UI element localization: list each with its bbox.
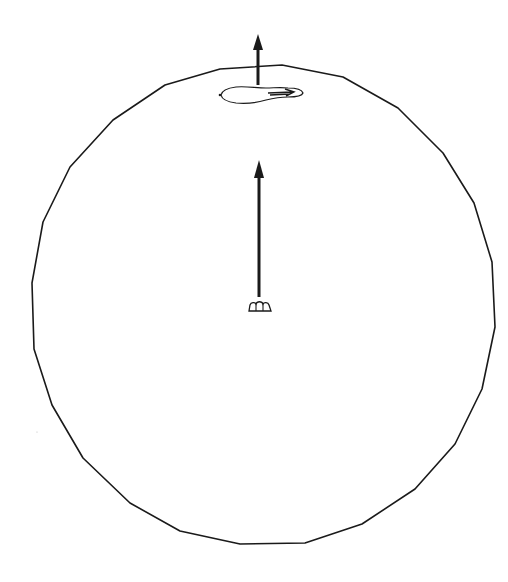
- center-arrow-icon: [254, 160, 264, 297]
- origin-marker-icon: [249, 302, 271, 311]
- top-arrow-icon: [253, 34, 263, 85]
- polar-diagram: [0, 0, 508, 582]
- stray-speck: [36, 431, 37, 432]
- blob-shape-icon: [219, 87, 303, 104]
